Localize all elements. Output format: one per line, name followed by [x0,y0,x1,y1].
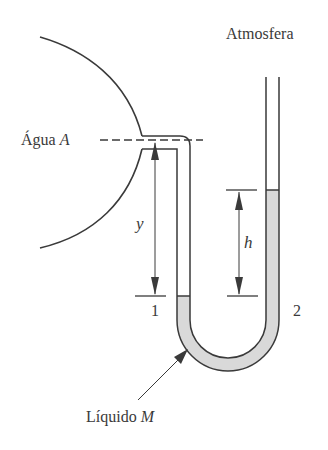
h-arrow-up-icon [235,192,243,210]
y-arrow-down-icon [151,277,159,295]
liquid-m-var: M [141,408,154,425]
atmosphere-label: Atmosfera [226,25,294,43]
manometer-diagram [0,0,328,450]
water-a-label-text: Água [21,131,60,148]
point-1-label: 1 [151,302,159,320]
liquid-m-fill [177,190,279,371]
y-arrow-up-icon [151,142,159,160]
water-a-label: Água A [21,131,69,149]
liquid-m-leader-line [138,355,183,400]
water-a-var: A [60,131,70,148]
tank-upper-arc [40,37,142,136]
y-label: y [136,214,144,234]
pipe-outer-wall [142,77,266,358]
pipe-inner-wall [142,77,279,371]
liquid-m-label: Líquido M [86,408,154,426]
liquid-m-label-text: Líquido [86,408,141,425]
point-2-label: 2 [293,302,301,320]
tank-lower-arc [40,149,142,248]
h-label: h [244,233,253,253]
h-arrow-down-icon [235,277,243,295]
